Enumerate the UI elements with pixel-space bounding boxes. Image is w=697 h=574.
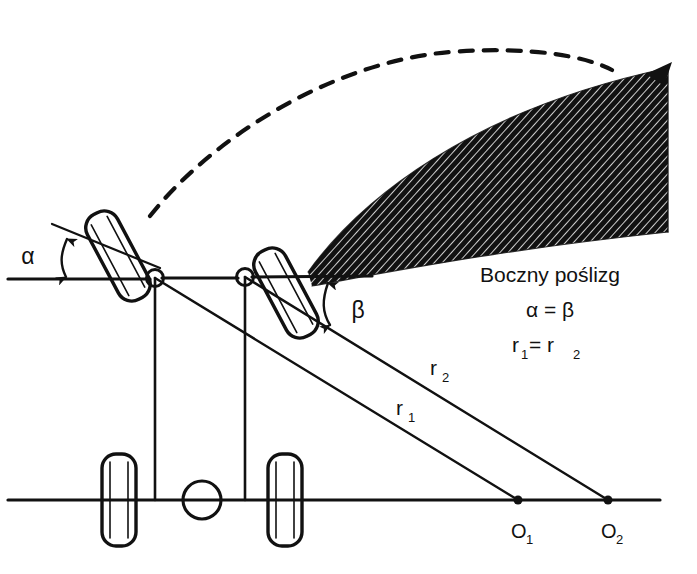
slip-diagram-root: α β r 2 r 1 O 1 O 2 Boczny poślizg α = β: [0, 0, 697, 574]
figure-title: Boczny poślizg: [480, 263, 620, 286]
front-wheel-right: [248, 243, 323, 344]
radius2-label-base: r: [430, 356, 437, 379]
equation-r1-sub: 1: [521, 347, 528, 362]
alpha-label: α: [21, 243, 34, 269]
center2-label-sub: 2: [616, 532, 623, 547]
equation-r2-sub: 2: [573, 347, 580, 362]
equation-radii: r 1 = r 2: [512, 333, 580, 362]
beta-label: β: [351, 297, 364, 323]
radius1-label: r 1: [396, 396, 415, 425]
center1-label-sub: 1: [526, 532, 533, 547]
turn-center-2: O 2: [601, 496, 623, 548]
front-wheel-left: [80, 206, 155, 307]
equation-alpha-beta: α = β: [526, 298, 574, 321]
radius2-label: r 2: [430, 356, 449, 385]
equation-r-equals: = r: [529, 333, 554, 356]
radius1-label-sub: 1: [408, 410, 415, 425]
center2-label-base: O: [601, 520, 617, 542]
turn-center-1: O 1: [511, 496, 533, 548]
radius-line-1: [155, 278, 518, 500]
equation-r1-base: r: [512, 333, 519, 356]
diagram-canvas: α β r 2 r 1 O 1 O 2 Boczny poślizg α = β: [0, 0, 697, 574]
beta-angle-marker: [324, 283, 330, 325]
radius1-label-base: r: [396, 396, 403, 419]
center1-label-base: O: [511, 520, 527, 542]
radius2-label-sub: 2: [442, 370, 449, 385]
